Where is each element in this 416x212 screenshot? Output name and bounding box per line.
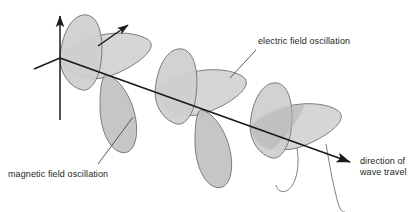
electric-field-label: electric field oscillation bbox=[258, 36, 350, 47]
electric-leader-line bbox=[230, 50, 256, 78]
direction-label-line2: wave travel bbox=[360, 167, 407, 177]
diagram-canvas: electric field oscillation magnetic fiel… bbox=[0, 0, 416, 212]
electric-lobe-3 bbox=[155, 49, 197, 124]
electric-lobe-2 bbox=[100, 75, 137, 153]
direction-label: direction ofwave travel bbox=[360, 156, 407, 178]
magnetic-field-label: magnetic field oscillation bbox=[8, 169, 108, 180]
direction-label-line1: direction of bbox=[360, 156, 405, 166]
depth-axis bbox=[34, 58, 60, 69]
em-wave-figure bbox=[0, 0, 416, 212]
electric-lobe-4 bbox=[195, 110, 232, 188]
electric-lobe-1 bbox=[60, 15, 102, 90]
